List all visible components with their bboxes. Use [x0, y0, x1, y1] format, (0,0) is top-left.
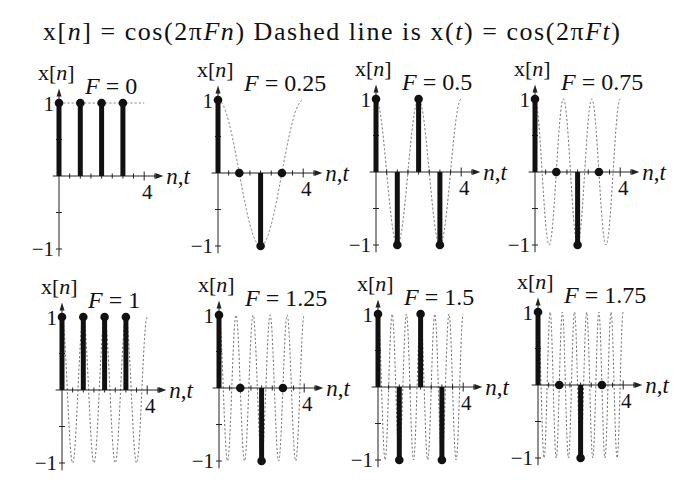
y-axis-arrowhead	[533, 84, 538, 92]
y-axis-arrowhead	[374, 84, 379, 92]
subplot-title: F = 0.25	[243, 70, 326, 96]
text-run: x[	[38, 60, 56, 85]
math-variable: n	[325, 161, 337, 186]
x-axis-arrowhead	[314, 170, 322, 176]
x-axis-label: n,t	[169, 378, 193, 403]
y-tick-label: −1	[351, 448, 373, 472]
stem-dot-n1	[79, 313, 88, 322]
subplot-title: F = 1.25	[244, 285, 327, 311]
text-run: x[	[517, 269, 535, 294]
y-axis-arrowhead	[217, 300, 222, 308]
text-run: = 1.75	[579, 282, 647, 308]
figure-canvas: x[n] = cos(2πFn) Dashed line is x(t) = c…	[0, 0, 692, 497]
y-axis-label: x[n]	[41, 274, 78, 299]
stem-dot-n1	[552, 168, 561, 177]
x-axis-arrowhead	[634, 382, 642, 388]
math-variable: n	[326, 376, 338, 401]
subplot-title: F = 0.5	[401, 69, 472, 95]
figure-title: x[n] = cos(2πFn) Dashed line is x(t) = c…	[43, 17, 620, 46]
x-tick-label: 4	[302, 392, 313, 416]
stem-dot-n0	[534, 308, 543, 317]
text-run: x[	[355, 56, 373, 81]
text-run: = 0	[100, 73, 138, 99]
y-tick-label: 1	[523, 301, 534, 325]
title-math-variable: Fn	[202, 17, 233, 46]
stem-dot-n2	[573, 241, 582, 250]
y-tick-label: −1	[35, 451, 57, 475]
text-run: = 1.5	[419, 284, 475, 310]
x-tick-label: 4	[459, 176, 470, 200]
stem-dot-n3	[436, 241, 445, 250]
math-variable: n	[642, 160, 654, 185]
title-math-variable: Ft	[584, 17, 610, 46]
math-variable: n	[169, 378, 181, 403]
math-variable: F	[401, 69, 417, 95]
subplot-title: F = 1	[87, 287, 140, 313]
math-variable: t	[344, 376, 351, 401]
text-run: ]	[226, 57, 233, 82]
y-axis-label: x[n]	[355, 56, 392, 81]
x-axis-label: n,t	[485, 375, 509, 400]
stem-dot-n3	[279, 384, 288, 393]
x-axis-arrowhead	[315, 385, 323, 391]
math-variable: n	[373, 56, 384, 81]
stem-dot-n2	[256, 242, 265, 251]
subplot-8: x[n]F = 1.75n,t41−1	[511, 269, 670, 470]
title-math-variable: n	[68, 17, 81, 46]
math-variable: t	[343, 161, 350, 186]
math-variable: t	[187, 378, 194, 403]
stem-dot-n3	[119, 99, 128, 108]
math-variable: n	[535, 269, 546, 294]
stem-dot-n1	[235, 169, 244, 178]
stem-dot-n3	[278, 169, 287, 178]
x-axis-arrowhead	[155, 173, 163, 179]
math-variable: n	[485, 375, 497, 400]
stem-dot-n1	[236, 384, 245, 393]
y-tick-label: −1	[508, 233, 530, 257]
stem-dot-n1	[393, 241, 402, 250]
y-axis-label: x[n]	[198, 272, 235, 297]
y-axis-label: x[n]	[514, 56, 551, 81]
math-variable: n	[56, 60, 67, 85]
math-variable: F	[403, 284, 419, 310]
figure-title-layer: x[n] = cos(2πFn) Dashed line is x(t) = c…	[43, 17, 620, 46]
x-axis-label: n,t	[325, 161, 349, 186]
stem-dot-n2	[414, 95, 423, 104]
text-run: ]	[546, 269, 553, 294]
math-variable: t	[660, 160, 667, 185]
text-run: ]	[386, 271, 393, 296]
stem-dot-n2	[576, 454, 585, 463]
x-tick-label: 4	[142, 180, 153, 204]
text-run: = 1.25	[260, 285, 328, 311]
title-text-run: ] = cos(2π	[82, 17, 202, 46]
text-run: = 0.25	[259, 70, 327, 96]
stem-dot-n1	[555, 381, 564, 390]
y-tick-label: −1	[191, 234, 213, 258]
text-run: x[	[41, 274, 59, 299]
x-tick-label: 4	[618, 176, 629, 200]
text-run: x[	[357, 271, 375, 296]
stem-dot-n2	[257, 457, 266, 466]
subplot-4: x[n]F = 0.75n,t41−1	[508, 56, 667, 257]
math-variable: F	[244, 285, 260, 311]
math-variable: t	[663, 373, 670, 398]
title-text-run: )	[611, 17, 620, 46]
stem-dot-n0	[214, 96, 223, 105]
title-math-variable: t	[455, 17, 463, 46]
y-axis-label: x[n]	[517, 269, 554, 294]
math-variable: n	[645, 373, 657, 398]
stem-dot-n1	[395, 456, 404, 465]
y-axis-arrowhead	[376, 299, 381, 307]
x-axis-label: n,t	[483, 160, 507, 185]
subplot-7: x[n]F = 1.5n,t41−1	[351, 271, 510, 472]
text-run: = 0.5	[417, 69, 473, 95]
x-axis-label: n,t	[326, 376, 350, 401]
math-variable: n	[216, 272, 227, 297]
math-variable: F	[560, 69, 576, 95]
y-axis-label: x[n]	[357, 271, 394, 296]
stem-dot-n3	[595, 168, 604, 177]
math-variable: t	[501, 160, 508, 185]
stem-dot-n2	[416, 310, 425, 319]
stem-dot-n0	[55, 99, 64, 108]
subplots-grid: x[n]F = 0n,t41−1x[n]F = 0.25n,t41−1x[n]F…	[32, 56, 670, 475]
